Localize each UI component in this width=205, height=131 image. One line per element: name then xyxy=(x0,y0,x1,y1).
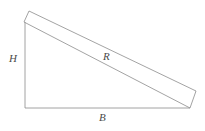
ramp-diagram: H R B xyxy=(0,0,205,131)
ramp-band-shape xyxy=(24,11,196,108)
height-label: H xyxy=(9,53,17,64)
ramp-label: R xyxy=(103,51,110,62)
base-label: B xyxy=(99,112,106,123)
